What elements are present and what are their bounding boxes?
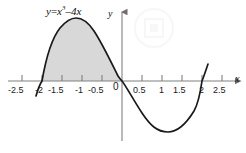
y-axis-label: y — [108, 9, 112, 19]
x-tick-label-1p5: 1.5 — [173, 86, 186, 95]
x-tick-label-neg1p5: -1.5 — [48, 86, 64, 95]
shaded-area-region — [42, 18, 122, 81]
x-tick-label-2: 2 — [199, 86, 204, 95]
plot-area — [0, 0, 246, 153]
x-axis-label: x — [235, 74, 239, 84]
x-tick-label-2p5: 2.5 — [213, 86, 226, 95]
x-tick-label-neg2p5: -2.5 — [8, 86, 24, 95]
equation-linear-term: 4x — [71, 5, 81, 17]
x-tick-label-neg0p5: -0.5 — [88, 86, 104, 95]
x-tick-label-neg1: -1 — [75, 86, 83, 95]
curve-equation-label: y=x3–4x — [46, 5, 81, 17]
x-tick-label-0p5: 0.5 — [133, 86, 146, 95]
x-tick-label-1: 1 — [159, 86, 164, 95]
function-graph-figure: y=x3–4x y x 0 -2.5 -2 -1.5 -1 -0.5 0.5 1… — [0, 0, 246, 153]
x-tick-label-neg2: -2 — [35, 86, 43, 95]
origin-label: 0 — [113, 82, 119, 92]
